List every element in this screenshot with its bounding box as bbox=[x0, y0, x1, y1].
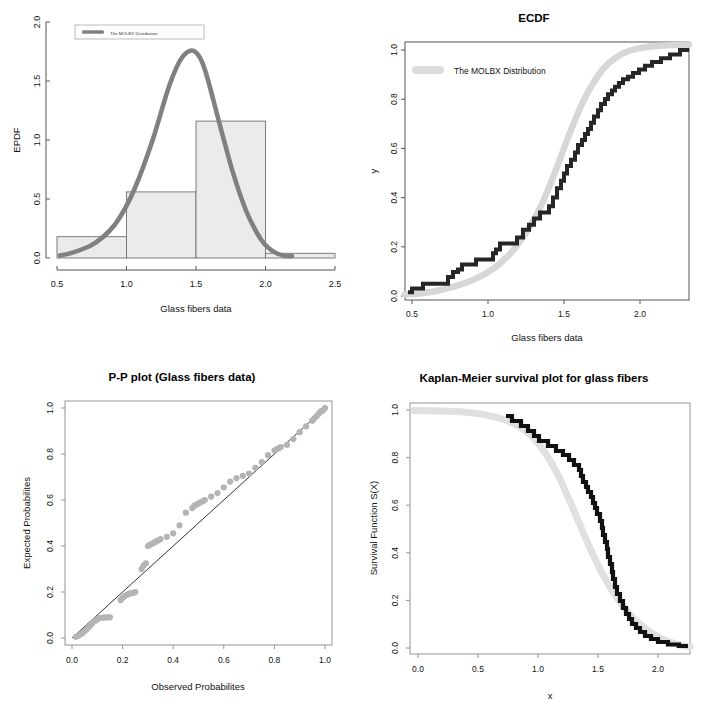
pp-x-ticklabels: 0.0 0.2 0.4 0.6 0.8 1.0 bbox=[66, 655, 331, 665]
x-tick-label: 1.5 bbox=[558, 309, 570, 319]
epdf-legend: The MOLBX Distribution bbox=[75, 25, 204, 39]
epdf-svg: 0.0 0.5 1.0 1.5 2.0 0.5 1.0 1.5 2.0 2.5 … bbox=[0, 0, 352, 358]
x-tick-label: 0.5 bbox=[406, 309, 418, 319]
y-tick-label: 1.0 bbox=[389, 44, 399, 56]
epdf-x-axis bbox=[57, 266, 335, 270]
x-tick-label: 2.0 bbox=[634, 309, 646, 319]
epdf-y-axis bbox=[46, 22, 50, 258]
pp-y-ticks bbox=[61, 408, 65, 638]
y-tick-label: 0.2 bbox=[390, 594, 400, 606]
x-tick-label: 2.5 bbox=[329, 279, 342, 289]
pp-x-ticks bbox=[72, 645, 325, 649]
ecdf-y-axis-label: y bbox=[368, 168, 379, 173]
y-tick-label: 0.8 bbox=[390, 451, 400, 463]
km-empirical-step bbox=[506, 416, 688, 646]
y-tick-label: 1.0 bbox=[32, 134, 42, 147]
pp-point bbox=[233, 475, 239, 481]
pp-point bbox=[290, 436, 296, 442]
panel-pp-plot: P-P plot (Glass fibers data) 0.0 0.2 0.4… bbox=[0, 358, 352, 716]
legend-label: The MOLBX Distribution bbox=[454, 66, 546, 76]
y-tick-label: 0.8 bbox=[389, 93, 399, 105]
y-tick-label: 0.0 bbox=[389, 290, 399, 302]
epdf-y-axis-label: EPDF bbox=[11, 127, 22, 153]
pp-y-ticklabels: 0.0 0.2 0.4 0.6 0.8 1.0 bbox=[45, 402, 55, 644]
ecdf-title: ECDF bbox=[518, 12, 549, 24]
pp-point bbox=[202, 497, 208, 503]
y-tick-label: 0.0 bbox=[390, 642, 400, 654]
legend-swatch bbox=[412, 66, 444, 74]
x-tick-label: 1.0 bbox=[532, 664, 544, 674]
ecdf-x-ticklabels: 0.5 1.0 1.5 2.0 bbox=[406, 309, 646, 319]
pp-point bbox=[157, 536, 163, 542]
pp-point bbox=[183, 510, 189, 516]
ecdf-x-ticks bbox=[412, 300, 640, 304]
y-tick-label: 0.4 bbox=[389, 191, 399, 203]
epdf-y-ticklabels: 0.0 0.5 1.0 1.5 2.0 bbox=[32, 16, 42, 265]
y-tick-label: 1.5 bbox=[32, 75, 42, 88]
pp-point bbox=[221, 484, 227, 490]
ecdf-frame bbox=[405, 42, 689, 300]
km-plot-area bbox=[406, 410, 690, 658]
ecdf-svg: ECDF 0.0 0.2 0.4 0.6 0.8 1.0 bbox=[352, 0, 704, 358]
pp-title: P-P plot (Glass fibers data) bbox=[109, 371, 256, 383]
km-svg: Kaplan-Meier survival plot for glass fib… bbox=[352, 358, 704, 716]
pp-point bbox=[297, 429, 303, 435]
pp-point bbox=[240, 473, 246, 479]
pp-point bbox=[265, 452, 271, 458]
pp-svg: P-P plot (Glass fibers data) 0.0 0.2 0.4… bbox=[0, 358, 352, 716]
ecdf-y-ticklabels: 0.0 0.2 0.4 0.6 0.8 1.0 bbox=[389, 44, 399, 302]
y-tick-label: 0.8 bbox=[45, 448, 55, 460]
x-tick-label: 1.5 bbox=[190, 279, 203, 289]
km-title: Kaplan-Meier survival plot for glass fib… bbox=[420, 372, 649, 384]
y-tick-label: 0.2 bbox=[389, 241, 399, 253]
y-tick-label: 0.5 bbox=[32, 193, 42, 206]
y-tick-label: 1.0 bbox=[45, 402, 55, 414]
y-tick-label: 0.6 bbox=[45, 494, 55, 506]
ecdf-empirical-step bbox=[408, 50, 689, 292]
pp-point bbox=[246, 470, 252, 476]
y-tick-label: 0.0 bbox=[45, 632, 55, 644]
legend-label: The MOLBX Distribution bbox=[110, 31, 158, 36]
pp-point bbox=[278, 444, 284, 450]
pp-point bbox=[227, 479, 233, 485]
km-x-ticklabels: 0.0 0.5 1.0 1.5 2.0 bbox=[412, 664, 664, 674]
epdf-histogram-bars bbox=[57, 121, 335, 258]
pp-y-axis-label: Expected Probabilites bbox=[21, 477, 32, 569]
ecdf-legend: The MOLBX Distribution bbox=[412, 66, 546, 76]
x-tick-label: 0.4 bbox=[167, 655, 179, 665]
figure-canvas: 0.0 0.5 1.0 1.5 2.0 0.5 1.0 1.5 2.0 2.5 … bbox=[0, 0, 704, 716]
y-tick-label: 1.0 bbox=[390, 404, 400, 416]
pp-x-axis-label: Observed Probabilites bbox=[151, 681, 245, 692]
histogram-bar bbox=[127, 192, 197, 258]
x-tick-label: 1.0 bbox=[482, 309, 494, 319]
epdf-x-ticklabels: 0.5 1.0 1.5 2.0 2.5 bbox=[51, 279, 342, 289]
y-tick-label: 0.4 bbox=[390, 547, 400, 559]
pp-point bbox=[252, 465, 258, 471]
pp-point bbox=[132, 589, 138, 595]
x-tick-label: 1.0 bbox=[120, 279, 133, 289]
y-tick-label: 0.4 bbox=[45, 540, 55, 552]
pp-point bbox=[322, 405, 328, 411]
panel-kaplan-meier: Kaplan-Meier survival plot for glass fib… bbox=[352, 358, 704, 716]
x-tick-label: 0.6 bbox=[218, 655, 230, 665]
pp-point bbox=[284, 442, 290, 448]
km-x-ticks bbox=[418, 654, 658, 658]
y-tick-label: 0.6 bbox=[389, 142, 399, 154]
y-tick-label: 0.6 bbox=[390, 499, 400, 511]
x-tick-label: 1.5 bbox=[592, 664, 604, 674]
x-tick-label: 0.5 bbox=[51, 279, 64, 289]
ecdf-x-axis-label: Glass fibers data bbox=[511, 332, 583, 343]
pp-point bbox=[259, 459, 265, 465]
panel-ecdf: ECDF 0.0 0.2 0.4 0.6 0.8 1.0 bbox=[352, 0, 704, 358]
x-tick-label: 0.2 bbox=[117, 655, 129, 665]
legend-swatch bbox=[82, 30, 104, 33]
ecdf-fit-curve bbox=[405, 45, 689, 295]
km-x-axis-label: x bbox=[548, 690, 553, 701]
x-tick-label: 0.5 bbox=[472, 664, 484, 674]
pp-point bbox=[303, 423, 309, 429]
pp-point bbox=[164, 534, 170, 540]
epdf-x-axis-label: Glass fibers data bbox=[160, 303, 232, 314]
km-y-axis-label: Survival Function S(X) bbox=[368, 481, 379, 576]
x-tick-label: 0.0 bbox=[66, 655, 78, 665]
pp-point bbox=[107, 614, 113, 620]
